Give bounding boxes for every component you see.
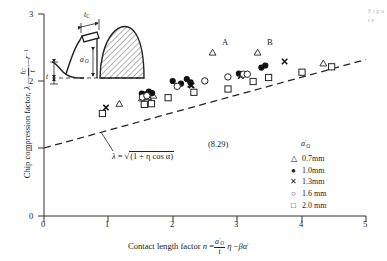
legend-label-1.6mm: 1.6 mm bbox=[302, 188, 326, 200]
x-tick-2: 2 bbox=[170, 219, 174, 229]
legend-item-1.3mm[interactable]: ✕ 1.3mm bbox=[287, 176, 326, 188]
legend-title: a′O bbox=[301, 137, 326, 152]
y-axis-title-num-sub: C bbox=[21, 69, 27, 73]
y-axis-title-denominator: t bbox=[29, 68, 37, 76]
legend-label-1.3mm: 1.3mm bbox=[302, 176, 324, 188]
legend-label-0.7mm: 0.7mm bbox=[302, 153, 324, 165]
y-axis-title-num-t: t bbox=[18, 72, 27, 74]
y-axis-title-r-exponent: −1 bbox=[23, 49, 29, 55]
equation-lambda: λ bbox=[112, 152, 116, 161]
y-tick-0: 0 bbox=[29, 211, 33, 221]
inset-label-tc-sub: C bbox=[86, 13, 89, 19]
legend: a′O △ 0.7mm ● 1.0mm ✕ 1.3mm ○ 1.6 mm □ 2… bbox=[287, 137, 326, 211]
trendline bbox=[44, 60, 366, 149]
inset-label-a0-sub: O bbox=[85, 58, 89, 64]
equation-leader-line bbox=[101, 132, 113, 151]
x-axis-title: Contact length factor n =a′Ot η −βα′ bbox=[128, 238, 249, 256]
open-circle-icon: ○ bbox=[287, 188, 300, 200]
cross-icon: ✕ bbox=[287, 176, 300, 188]
legend-item-0.7mm[interactable]: △ 0.7mm bbox=[287, 153, 326, 165]
legend-label-2.0mm: 2.0 mm bbox=[302, 200, 326, 212]
x-tick-1: 1 bbox=[105, 219, 109, 229]
open-triangle-icon: △ bbox=[287, 153, 300, 165]
y-axis-title-prefix: Chip compression factor, bbox=[22, 92, 32, 178]
x-axis-title-num-sub: O bbox=[220, 240, 224, 246]
open-square-icon: □ bbox=[287, 200, 300, 212]
x-axis-title-beta-alpha: βα bbox=[238, 241, 247, 251]
y-axis-ticks bbox=[38, 14, 44, 216]
x-axis-title-denominator: t bbox=[214, 248, 225, 256]
x-tick-0: 0 bbox=[41, 219, 45, 229]
x-tick-3: 3 bbox=[234, 219, 238, 229]
legend-title-sub: O bbox=[306, 143, 310, 149]
y-axis-title-lambda: λ bbox=[22, 86, 32, 90]
inset-label-a0: a′O bbox=[80, 55, 89, 64]
legend-item-1.0mm[interactable]: ● 1.0mm bbox=[287, 165, 326, 177]
y-axis-title-r: r bbox=[22, 56, 32, 59]
inset-label-tc: tC bbox=[84, 10, 90, 19]
legend-label-1.0mm: 1.0mm bbox=[302, 165, 324, 177]
equation-body: (1 + η cos α) bbox=[129, 151, 174, 161]
figure-container: 3 2 1 0 0 1 2 3 4 5 Chip compression fac… bbox=[0, 0, 387, 261]
x-axis-title-fraction: a′Ot bbox=[214, 238, 225, 256]
annotation-a: A bbox=[222, 37, 228, 47]
inset-label-t: t bbox=[46, 72, 48, 81]
trendline-equation: λ = √(1 + η cos α) bbox=[112, 152, 174, 161]
x-axis-title-eta: η bbox=[227, 241, 231, 251]
equation-equals: = bbox=[118, 152, 123, 161]
y-axis-title-dash1: — bbox=[22, 75, 32, 84]
legend-item-2.0mm[interactable]: □ 2.0 mm bbox=[287, 200, 326, 212]
equation-number: (8.29) bbox=[208, 140, 228, 149]
inset-chip-diagram bbox=[50, 19, 144, 84]
annotation-b: B bbox=[267, 37, 273, 47]
page-margin-text: F i g u r e bbox=[368, 6, 387, 24]
chart-canvas bbox=[0, 0, 387, 261]
x-axis-ticks bbox=[44, 216, 366, 222]
legend-item-1.6mm[interactable]: ○ 1.6 mm bbox=[287, 188, 326, 200]
x-axis-title-alpha-prime: ′ bbox=[247, 242, 248, 248]
x-tick-4: 4 bbox=[299, 219, 303, 229]
y-axis-title-fraction: tCt bbox=[19, 68, 37, 76]
y-axis-title: Chip compression factor, λ —tCt—r−1 bbox=[19, 24, 37, 204]
x-axis-title-n: n bbox=[203, 241, 207, 251]
filled-circle-icon: ● bbox=[287, 165, 300, 177]
y-axis-title-dash2: — bbox=[22, 59, 32, 68]
x-tick-5: 5 bbox=[363, 219, 367, 229]
x-axis-title-prefix: Contact length factor bbox=[128, 241, 201, 251]
y-tick-3: 3 bbox=[29, 9, 33, 19]
